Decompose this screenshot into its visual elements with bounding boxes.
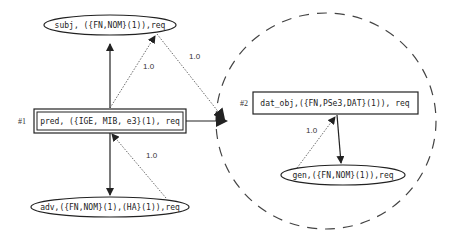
node-subj-label: subj, ({FN,NOM}(1)),req <box>55 21 166 30</box>
edge-subj-group <box>157 34 224 119</box>
edge-gen-datobj-weighted <box>297 117 335 168</box>
node-pred-index: #1 <box>18 117 26 126</box>
edge-pred-subj-weighted <box>110 36 155 108</box>
node-pred-label: pred, ({IGE, MIB, e3}(1), req <box>40 117 180 126</box>
weight-pred-subj: 1.0 <box>143 62 155 71</box>
edge-datobj-gen <box>337 115 341 163</box>
node-datobj-index: #2 <box>240 99 248 108</box>
group-circle <box>216 13 436 229</box>
node-gen-label: gen,({FN,NOM}(1)),req <box>292 171 393 180</box>
edge-adv-pred-weighted <box>112 134 166 198</box>
weight-adv-pred: 1.0 <box>146 151 158 160</box>
weight-gen-datobj: 1.0 <box>306 126 318 135</box>
node-adv-label: adv,({FN,NOM}(1),(HA}(1)),req <box>40 203 180 212</box>
node-dat-obj-label: dat_obj,({FN,PSe3,DAT}(1)), req <box>260 99 409 108</box>
weight-subj-group: 1.0 <box>189 52 201 61</box>
dependency-diagram: 1.0 1.0 1.0 1.0 subj, ({FN,NOM}(1)),req … <box>0 0 453 238</box>
